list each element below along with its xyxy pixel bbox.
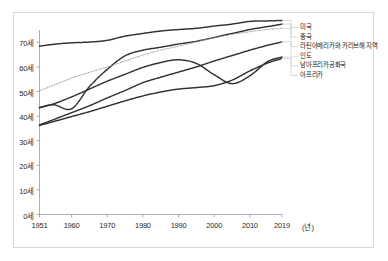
y-axis-tick-label: 60세 [8, 62, 34, 73]
y-axis-tick-label: 30세 [8, 136, 34, 147]
legend-connector-3 [282, 42, 298, 57]
legend-item-0[interactable]: 미국 [300, 24, 312, 30]
legend-item-1[interactable]: 중국 [300, 34, 312, 40]
x-axis-tick-label: 1980 [126, 221, 160, 230]
y-axis-tick-label: 20세 [8, 160, 34, 171]
series-line-3 [40, 42, 283, 125]
chart-axes [39, 30, 282, 215]
legend-connector-5 [282, 59, 298, 76]
legend-item-2[interactable]: 라틴아메리카와 카리브해 지역 [300, 43, 378, 49]
series-line-1 [40, 24, 283, 109]
legend-connector-2 [282, 28, 298, 46]
legend-connector-lines [282, 20, 298, 75]
x-axis-ticks [40, 215, 283, 218]
y-axis-tick-label: 10세 [8, 185, 34, 196]
series-line-5 [40, 59, 283, 126]
y-axis-ticks [37, 42, 40, 214]
x-axis-tick-label: 1970 [90, 221, 124, 230]
y-axis-tick-label: 70세 [8, 37, 34, 48]
chart-series-layer [40, 20, 283, 125]
series-line-2 [40, 28, 283, 91]
legend-item-4[interactable]: 남아프리카공화국 [300, 62, 346, 68]
y-axis-tick-label: 50세 [8, 87, 34, 98]
x-axis-tick-label: 2000 [197, 221, 231, 230]
legend-item-3[interactable]: 인도 [300, 53, 312, 59]
series-line-0 [40, 20, 283, 46]
series-line-4 [40, 57, 283, 108]
x-axis-unit-label: (년) [302, 221, 314, 232]
x-axis-tick-label: 2010 [233, 221, 267, 230]
x-axis-tick-label: 1960 [55, 221, 89, 230]
y-axis-tick-label: 0세 [8, 210, 34, 221]
x-axis-tick-label: 1990 [162, 221, 196, 230]
x-axis-tick-label: 1951 [23, 221, 57, 230]
legend-item-5[interactable]: 아프리카 [300, 72, 323, 78]
y-axis-tick-label: 40세 [8, 111, 34, 122]
x-axis-tick-label: 2019 [265, 221, 299, 230]
legend-connector-1 [282, 24, 298, 37]
